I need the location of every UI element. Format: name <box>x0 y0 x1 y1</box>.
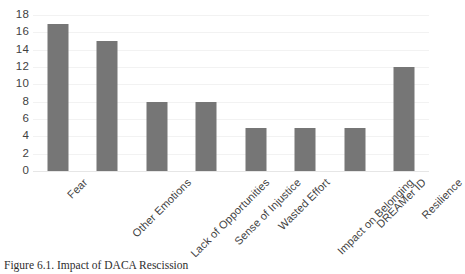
x-axis-tick: Fear <box>33 171 83 243</box>
x-axis-tick: Sense of Injustice <box>182 171 232 243</box>
y-axis-tick-label: 8 <box>22 95 29 107</box>
x-axis-tick: Impact on Belonging <box>281 171 331 243</box>
y-axis-tick-label: 6 <box>22 112 29 124</box>
bar <box>97 41 118 171</box>
x-axis-tick: Resilience <box>380 171 430 243</box>
y-axis-tick-label: 16 <box>16 25 29 37</box>
bar-slot <box>33 15 83 171</box>
y-axis-tick-label: 10 <box>16 77 29 89</box>
bar-slot <box>330 15 380 171</box>
x-axis-tick-label: Resilience <box>419 176 464 221</box>
bar <box>295 128 316 171</box>
y-axis-tick-label: 18 <box>16 8 29 20</box>
bar <box>47 24 68 171</box>
figure-caption: Figure 6.1. Impact of DACA Rescission <box>4 259 424 272</box>
x-axis-tick: DREAMer ID <box>330 171 380 243</box>
bar-slot <box>83 15 133 171</box>
x-axis-tick: Other Emotions <box>83 171 133 243</box>
bar <box>245 128 266 171</box>
x-axis-tick-labels: FearOther EmotionsLack of OpportunitiesS… <box>33 171 429 243</box>
bar-slot <box>231 15 281 171</box>
y-axis-tick-label: 12 <box>16 60 29 72</box>
y-axis-tick-label: 14 <box>16 43 29 55</box>
x-axis-tick: Lack of Opportunities <box>132 171 182 243</box>
bar <box>146 102 167 171</box>
bar <box>196 102 217 171</box>
bar <box>394 67 415 171</box>
bar-slot <box>182 15 232 171</box>
y-axis-tick-label: 0 <box>22 164 29 176</box>
x-axis-tick: Wasted Effort <box>231 171 281 243</box>
bar <box>344 128 365 171</box>
bar-series <box>33 15 429 171</box>
bar-slot <box>281 15 331 171</box>
y-axis-tick-label: 4 <box>22 129 29 141</box>
bar-slot <box>380 15 430 171</box>
y-axis-tick-label: 2 <box>22 147 29 159</box>
chart-plot-area: 024681012141618 <box>33 15 429 171</box>
bar-slot <box>132 15 182 171</box>
